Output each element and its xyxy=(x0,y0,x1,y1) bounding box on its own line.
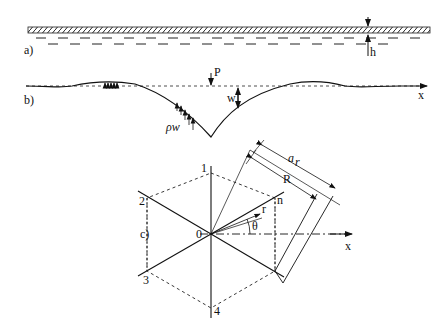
outer-radius-R-label: R xyxy=(283,172,291,186)
ring-strip-outer xyxy=(283,196,333,283)
ring-a-label: a xyxy=(288,151,294,165)
panel-b-label: b) xyxy=(24,93,34,107)
x-axis-label-c: x xyxy=(345,239,351,253)
node-label-3: 3 xyxy=(143,273,149,287)
deflection-w-label: w xyxy=(227,91,236,105)
angle-theta-label: θ xyxy=(252,219,258,233)
panel-c-label: c) xyxy=(140,227,149,241)
pressure-arrows-left xyxy=(105,83,117,88)
dim-ext-left-R xyxy=(246,150,256,164)
node-label-0: 0 xyxy=(196,227,202,241)
dim-ext-left-ar xyxy=(253,140,264,153)
panel-a-label: a) xyxy=(24,43,33,57)
node-label-2: 2 xyxy=(139,194,145,208)
figure-canvas: a) h x P w ρw b) xyxy=(0,0,448,336)
plate-hatched xyxy=(28,27,430,33)
node-label-4: 4 xyxy=(214,304,220,318)
ring-subscript-r: r xyxy=(295,155,300,169)
panel-c: x r θ a r R 1 2 3 4 n 0 c) xyxy=(138,140,355,318)
dim-ext-ar-outer xyxy=(262,145,355,192)
x-axis-label-b: x xyxy=(418,88,424,102)
thickness-h-label: h xyxy=(370,45,376,59)
radius-r-label: r xyxy=(262,202,266,216)
angle-theta-arc xyxy=(247,219,250,234)
deflection-curve xyxy=(26,82,400,137)
thin-ray-1 xyxy=(211,150,250,234)
node-label-n: n xyxy=(277,193,283,207)
node-label-1: 1 xyxy=(201,161,207,175)
ring-strip-end xyxy=(275,271,283,283)
panel-a: a) h xyxy=(24,17,430,59)
pressure-rho-w-label: ρw xyxy=(165,120,180,134)
load-P-label: P xyxy=(214,65,221,79)
panel-b: x P w ρw b) xyxy=(24,65,427,137)
